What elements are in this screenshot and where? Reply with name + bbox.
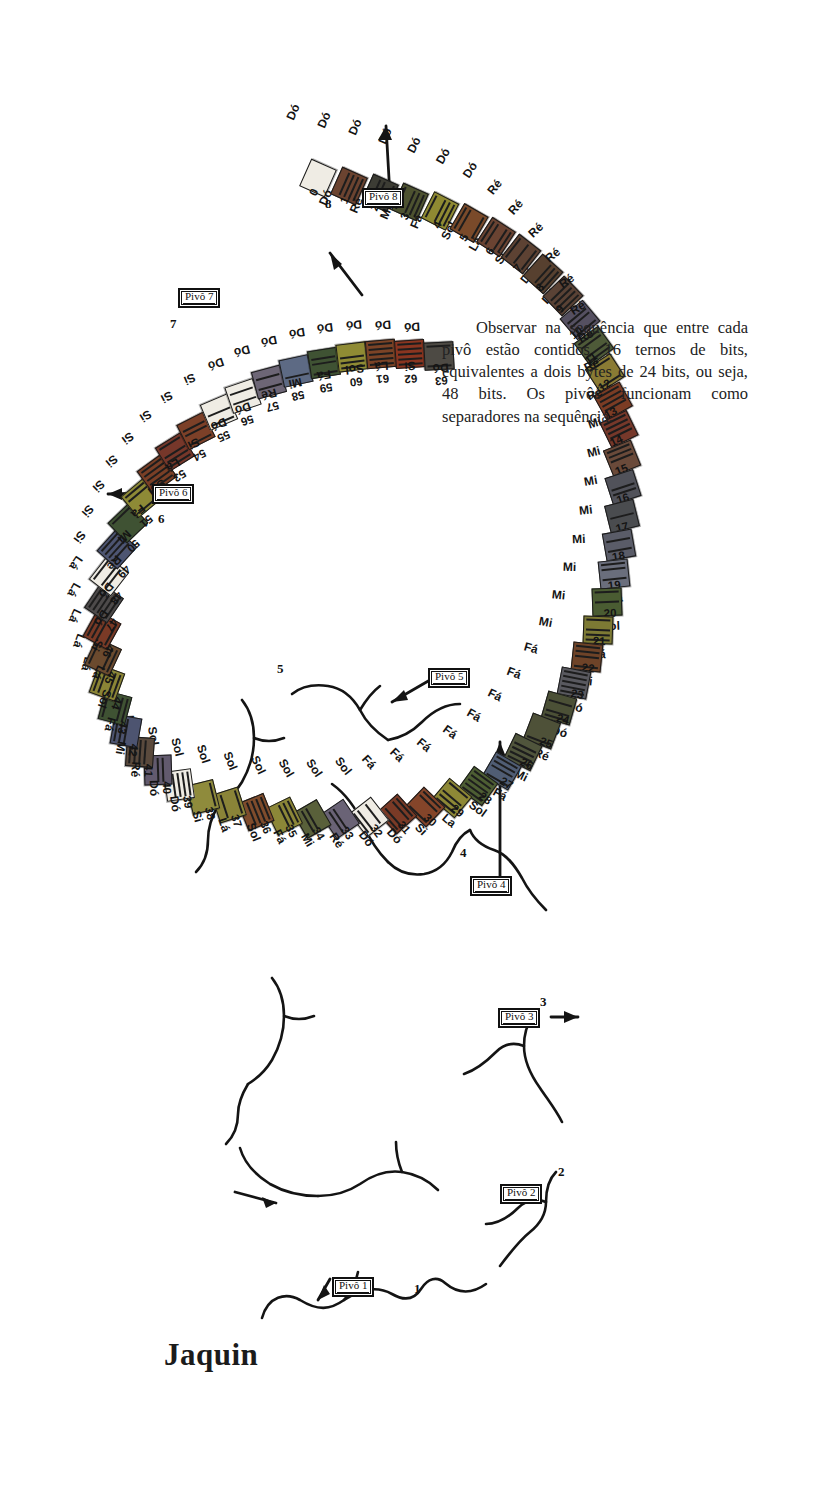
pivot-callout-3[interactable]: Pivô 3 [498,1008,540,1028]
cell-note: Dó [168,795,182,813]
cell-bottom-label: Si [90,478,106,495]
cell-index: 61 [375,372,390,385]
pivot-label-7: Pivô 7 [183,291,215,304]
pivot-label-5: Pivô 5 [433,671,465,684]
bit-bar [398,347,422,351]
cell-bottom-label: Dó [461,160,480,180]
bit-gap [339,350,363,355]
cell-bottom-label: Ré [485,177,504,196]
cell-bottom-label: Fá [465,706,483,723]
bit-bar [601,567,625,571]
cell-note: Fá [316,368,332,382]
bit-bar [595,591,619,594]
cell-index: 62 [404,372,418,385]
cell-top-label: 42Mi [114,740,140,757]
cell-bottom-label: Si [182,371,197,386]
cell-bottom-label: Lá [67,607,84,625]
cell-bottom-label: Fá [360,753,378,771]
pivot-callout-1[interactable]: Pivô 1 [332,1277,374,1297]
cell-bottom-label: Si [103,453,119,469]
bit-bar [575,655,599,659]
pivot-label-6: Pivô 6 [157,487,189,500]
cell-bottom-label: Dó [233,343,252,359]
bit-gap [602,572,626,576]
pivot-callout-4[interactable]: Pivô 4 [470,876,512,896]
cell-bottom-label: Dó [284,102,301,121]
bit-gap [167,758,170,782]
cell-bottom-label: Sol [333,755,354,777]
cell-bottom-label: Dó [316,321,333,335]
cell-bottom-label: Dó [346,318,363,331]
cell-note: Si [190,809,205,824]
cell-top-label: 40Dó [148,780,172,797]
explanatory-paragraph: Observar na sequência que entre cada piv… [442,317,748,428]
cell-bottom-label: Dó [315,110,332,129]
cell-bottom-label: Ré [526,220,545,239]
cell-bottom-label: Lá [67,554,85,572]
bit-bar [586,619,610,622]
cell-note: Si [403,360,417,373]
bit-bar [576,645,600,649]
cell-bottom-label: Si [71,529,87,545]
diagram-canvas: 0DóDó1RéDó2MiDó3FáDó4SolDó5LáDó6SiDó7DóR… [0,0,814,1501]
cell-bottom-label: Fá [523,640,540,655]
cell-bottom-label: Si [159,389,175,405]
pivot-callout-2[interactable]: Pivô 2 [500,1184,542,1204]
pivot-label-4: Pivô 4 [475,879,507,892]
cell-top-label: 61Lá [374,359,390,384]
cell-bottom-label: Ré [506,197,525,216]
bit-bar [340,355,364,360]
pivot-index-7: 7 [170,316,177,332]
cell-bottom-label: Mi [572,533,586,545]
cell-bottom-label: Sol [221,750,239,772]
pivot-index-5: 5 [277,661,284,677]
bit-gap [339,345,363,350]
bit-bar [143,740,147,764]
cell-bottom-label: Fá [441,723,459,741]
cell-bottom-label: Sol [276,757,296,779]
cell-bottom-label: Dó [288,326,306,340]
bit-bar [186,772,191,796]
pivot-index-2: 2 [558,1164,565,1180]
pivot-callout-6[interactable]: Pivô 6 [152,484,194,504]
bit-bar [398,352,422,356]
cell-bottom-label: Dó [346,117,363,136]
cell-bottom-label: Dó [434,146,452,166]
bit-bar [586,629,610,632]
cell-bottom-label: Mi [538,615,553,629]
cell-note: Mi [114,740,128,755]
bit-gap [595,596,619,599]
pivot-callout-5[interactable]: Pivô 5 [428,668,470,688]
bit-bar [162,758,165,782]
cell-bottom-label: Mi [578,503,593,516]
bit-bar [575,650,599,654]
cell-bottom-label: Dó [405,135,423,155]
cell-bottom-label: Sol [169,736,185,757]
cell-bottom-label: Si [120,430,136,446]
cell-note: Ré [129,761,142,777]
pivot-label-8: Pivô 8 [367,191,399,204]
cell-bottom-label: Si [138,408,154,424]
cell-bottom-label: Si [79,503,96,519]
pivot-index-4: 4 [460,845,467,861]
cell-bottom-label: Mi [551,588,566,601]
bit-bar [368,342,392,346]
bit-gap [148,741,152,765]
bit-bar [157,758,160,782]
cell-bottom-label: Dó [375,318,392,331]
cell-index: 41 [141,762,154,778]
cell-bottom-label: Dó [404,321,421,334]
pivot-callout-7[interactable]: Pivô 7 [178,288,220,308]
pivot-index-1: 1 [414,1281,421,1297]
cell-bottom-label: Mi [563,561,577,573]
pivot-index-6: 6 [158,511,165,527]
cell-top-label: 1Ré [337,191,365,215]
cell-bottom-label: Sol [249,754,268,776]
cell-bottom-label: Fá [505,665,522,681]
pivot-callout-8[interactable]: Pivô 8 [362,188,404,208]
bit-gap [133,721,139,745]
cell-note: Lá [374,359,389,372]
cell-bottom-label: Sol [195,743,212,764]
bit-bar [369,352,393,356]
cell-bottom-label: Mi [586,445,602,460]
